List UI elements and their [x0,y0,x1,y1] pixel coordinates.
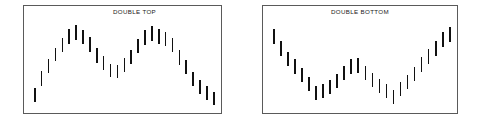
price-bar [55,48,57,61]
price-bar [343,66,345,80]
price-bar [158,29,160,44]
price-bar [407,75,409,89]
price-bar [179,50,181,65]
price-bar [393,90,395,104]
price-bar [103,56,105,70]
price-bar [34,88,36,102]
price-bar [199,80,201,94]
price-bar [117,65,119,78]
price-bar [96,48,98,63]
price-bar [68,29,70,44]
price-bar [280,41,282,56]
price-bar [315,86,317,100]
price-bar [165,32,167,46]
price-bar [62,38,64,52]
price-bar [89,37,91,51]
price-bar [192,72,194,86]
price-bar [206,86,208,100]
pattern-chart-figure: DOUBLE TOP DOUBLE BOTTOM [0,0,482,128]
price-bar [400,82,402,96]
price-bar [48,59,50,72]
price-bar [357,58,359,73]
price-bar [294,59,296,73]
price-bar [151,26,153,41]
price-bar [41,71,43,86]
price-bar [213,92,215,105]
price-bar [124,58,126,72]
chart-panel-double-bottom: DOUBLE BOTTOM [262,5,458,114]
price-bar [350,59,352,74]
price-bar [442,32,444,47]
plot-area-double-top [24,6,221,113]
price-bar [322,84,324,98]
price-bar [301,68,303,82]
price-bar [379,79,381,93]
price-bar [435,41,437,56]
price-bar [172,38,174,52]
price-bar [308,77,310,91]
price-bar [137,39,139,53]
price-bar [365,66,367,80]
price-bar [386,84,388,98]
price-bar [287,52,289,66]
price-bar [130,50,132,64]
price-bar [82,30,84,44]
price-bar [336,74,338,88]
price-bar [329,80,331,94]
price-bar [75,25,77,40]
chart-panel-double-top: DOUBLE TOP [23,5,222,114]
price-bar [273,29,275,44]
price-bar [110,64,112,77]
price-bar [449,27,451,42]
plot-area-double-bottom [263,6,457,113]
price-bar [372,73,374,87]
price-bar [428,49,430,64]
price-bar [185,60,187,74]
price-bar [414,67,416,81]
price-bar [144,30,146,45]
price-bar [421,57,423,72]
